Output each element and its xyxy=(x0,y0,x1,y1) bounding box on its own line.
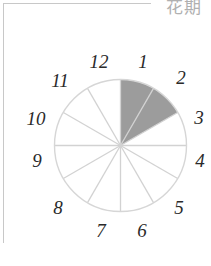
pie-divider-line xyxy=(121,146,178,179)
month-label-8: 8 xyxy=(53,198,63,217)
pie-divider-line xyxy=(88,88,121,145)
month-label-9: 9 xyxy=(32,151,42,170)
pie-divider-line xyxy=(63,146,120,179)
month-label-3: 3 xyxy=(194,108,204,127)
month-label-6: 6 xyxy=(137,221,147,240)
pie-divider-line xyxy=(121,146,154,203)
month-label-5: 5 xyxy=(174,198,184,217)
month-label-1: 1 xyxy=(138,52,148,71)
pie-segments xyxy=(121,80,178,146)
month-label-12: 12 xyxy=(90,52,109,71)
month-label-7: 7 xyxy=(96,221,106,240)
pie-divider-line xyxy=(63,113,120,146)
month-label-11: 11 xyxy=(51,71,69,90)
month-label-4: 4 xyxy=(195,151,205,170)
month-label-2: 2 xyxy=(176,68,186,87)
month-label-10: 10 xyxy=(27,109,46,128)
pie-divider-line xyxy=(88,146,121,203)
